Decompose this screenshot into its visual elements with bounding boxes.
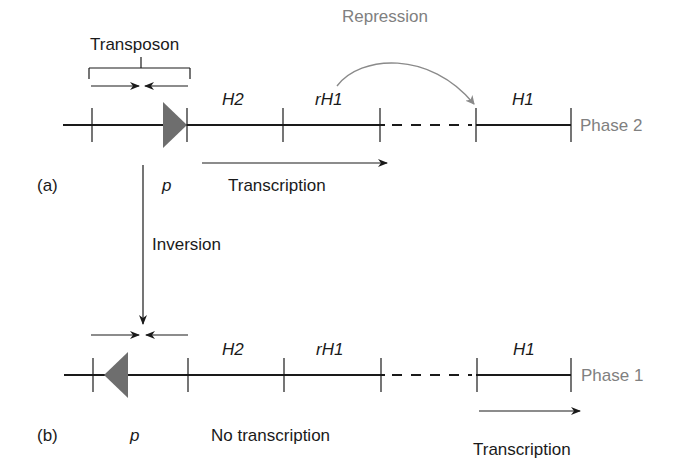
gene-label-h2: H2: [222, 90, 244, 109]
promoter-label-a: p: [161, 176, 171, 195]
gene-label-h2-b: H2: [222, 340, 244, 359]
panel-b: H2 rH1 H1 Phase 1 (b) p No transcription…: [37, 335, 643, 459]
gene-label-rh1: rH1: [315, 90, 342, 109]
phase-variation-diagram: Transposon H2 rH1 H1 Phase 2: [0, 0, 685, 476]
gene-label-h1: H1: [512, 90, 534, 109]
transcription-label-b: Transcription: [473, 440, 571, 459]
phase-2-label: Phase 2: [580, 116, 642, 135]
panel-b-label: (b): [37, 426, 58, 445]
no-transcription-label: No transcription: [211, 426, 330, 445]
panel-a: Transposon H2 rH1 H1 Phase 2: [37, 7, 642, 195]
gene-label-rh1-b: rH1: [316, 340, 343, 359]
repression-label: Repression: [342, 7, 428, 26]
transposon-label: Transposon: [90, 35, 179, 54]
inversion: Inversion: [143, 165, 221, 324]
transposon-bracket: [89, 57, 190, 79]
panel-a-label: (a): [37, 176, 58, 195]
transcription-label-a: Transcription: [228, 176, 326, 195]
promoter-triangle-left-icon: [104, 352, 128, 398]
promoter-triangle-right-icon: [163, 102, 187, 148]
promoter-label-b: p: [129, 426, 139, 445]
phase-1-label: Phase 1: [581, 366, 643, 385]
inversion-label: Inversion: [152, 235, 221, 254]
gene-label-h1-b: H1: [513, 340, 535, 359]
repression-arrow-icon: [337, 63, 474, 104]
